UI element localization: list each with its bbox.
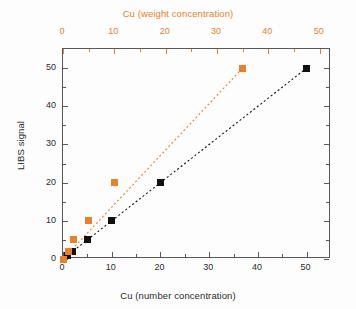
tick-label: 30 — [30, 138, 56, 148]
data-point-marker — [70, 236, 77, 243]
tick-label: 0 — [59, 262, 64, 272]
data-point-marker — [239, 65, 246, 72]
data-point-marker — [65, 248, 72, 255]
figure-container: Cu (weight concentration) Cu (number con… — [0, 0, 356, 309]
tick-label: 20 — [30, 177, 56, 187]
tick-label: 10 — [30, 215, 56, 225]
plot-frame — [62, 48, 330, 258]
bottom-axis-title: Cu (number concentration) — [0, 290, 356, 301]
tick-label: 50 — [301, 262, 311, 272]
data-point-marker — [108, 217, 115, 224]
tick-label: 10 — [108, 26, 118, 36]
axis-tick — [324, 259, 329, 260]
tick-label: 20 — [160, 26, 170, 36]
tick-label: 50 — [314, 26, 324, 36]
tick-label: 0 — [30, 253, 56, 263]
y-axis-title: LIBS signal — [15, 86, 26, 206]
tick-label: 20 — [154, 262, 164, 272]
data-point-marker — [111, 179, 118, 186]
data-point-marker — [84, 236, 91, 243]
tick-label: 40 — [262, 26, 272, 36]
data-markers-layer — [63, 49, 329, 257]
tick-label: 30 — [211, 26, 221, 36]
data-point-marker — [157, 179, 164, 186]
tick-label: 10 — [106, 262, 116, 272]
tick-label: 40 — [252, 262, 262, 272]
tick-label: 50 — [30, 62, 56, 72]
data-point-marker — [60, 256, 67, 263]
data-point-marker — [303, 65, 310, 72]
tick-label: 30 — [203, 262, 213, 272]
tick-label: 0 — [59, 26, 64, 36]
data-point-marker — [85, 217, 92, 224]
tick-label: 40 — [30, 100, 56, 110]
top-axis-title: Cu (weight concentration) — [0, 8, 356, 19]
